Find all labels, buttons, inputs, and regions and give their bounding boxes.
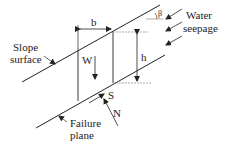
beta-arc-icon — [155, 13, 157, 19]
seepage-arrow-3 — [166, 36, 182, 45]
shear-arrow — [89, 94, 104, 103]
failure-label-line1: Failure — [70, 117, 101, 129]
beta-label: β — [158, 9, 162, 18]
seepage-arrow-1 — [166, 9, 182, 19]
seepage-arrow-2 — [166, 22, 182, 31]
n-label: N — [113, 107, 121, 119]
slope-diagram: b h β Water seepage Slope surface W S N … — [0, 0, 228, 151]
failure-label-line2: plane — [70, 129, 94, 141]
seepage-label: seepage — [183, 22, 218, 34]
slope-label-line1: Slope — [13, 41, 38, 53]
slope-label-line2: surface — [10, 53, 42, 65]
s-label: S — [108, 89, 114, 101]
slope-pointer-arrow — [44, 56, 55, 64]
failure-pointer-arrow — [59, 116, 67, 122]
w-label: W — [82, 54, 93, 66]
h-label: h — [141, 51, 147, 63]
b-label: b — [91, 16, 97, 28]
water-label: Water — [186, 9, 212, 21]
